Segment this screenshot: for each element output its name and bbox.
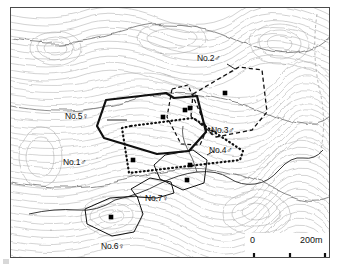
- location-point-marker: [131, 158, 136, 163]
- range-label-no3: No.3♂: [211, 126, 234, 135]
- range-label-no6: No.6♀: [101, 242, 124, 251]
- location-point-marker: [185, 178, 190, 183]
- label-leader-lines: [107, 64, 235, 155]
- location-point-marker: [109, 215, 114, 220]
- location-point-marker: [223, 91, 228, 96]
- location-point-marker: [188, 163, 193, 168]
- location-point-marker: [183, 108, 188, 113]
- map-frame: No.1♂ No.2♂ No.3♂ No.4♂ No.5♀ No.6♀ No.7…: [10, 7, 330, 258]
- home-range-polygon-no6: [85, 196, 143, 236]
- home-range-polygon-no4: [154, 150, 207, 190]
- range-label-no2: No.2♂: [197, 54, 220, 63]
- range-label-no4: No.4♂: [209, 146, 232, 155]
- home-range-overlay-layer: [11, 8, 329, 257]
- scale-min-label: 0: [250, 235, 255, 245]
- corner-artifact: [3, 259, 9, 264]
- range-label-no1: No.1♂: [63, 158, 86, 167]
- topographic-map-figure: No.1♂ No.2♂ No.3♂ No.4♂ No.5♀ No.6♀ No.7…: [0, 0, 340, 269]
- range-label-no5: No.5♀: [65, 112, 88, 121]
- scale-bar-graphic: [246, 249, 330, 258]
- location-point-marker: [161, 115, 166, 120]
- range-label-no7: No.7♀: [145, 194, 168, 203]
- scale-bar: 0 200m: [245, 233, 330, 258]
- location-point-marker: [188, 106, 193, 111]
- scale-max-label: 200m: [300, 235, 323, 245]
